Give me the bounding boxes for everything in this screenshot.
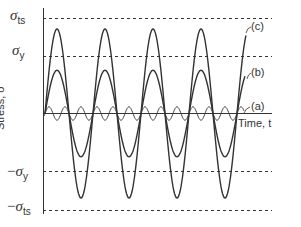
leader-a xyxy=(244,107,250,113)
curve-label-a: (a) xyxy=(251,100,264,112)
curve-label-c: (c) xyxy=(251,20,264,32)
x-axis-label: Time, t xyxy=(238,117,271,129)
stress-time-diagram xyxy=(0,0,301,227)
label-sigma-ts: σts xyxy=(10,7,25,26)
label-neg-sigma-ts: −σts xyxy=(7,198,31,217)
label-neg-sigma-y: −σy xyxy=(7,163,28,182)
y-axis-label: Stress, σ xyxy=(0,86,6,130)
label-sigma-y: σy xyxy=(12,42,24,61)
curve-label-b: (b) xyxy=(251,66,264,78)
